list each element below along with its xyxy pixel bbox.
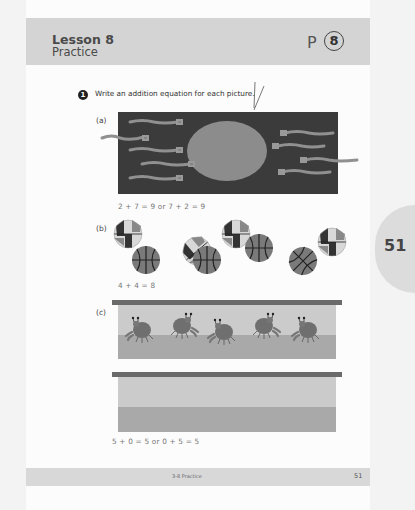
part-c-tank-with-crabs — [112, 300, 344, 366]
side-page-number: 51 — [384, 236, 406, 255]
part-b-label: (b) — [96, 224, 107, 233]
part-a-answer: 2 + 7 = 9 or 7 + 2 = 9 — [118, 202, 205, 211]
footer-page-number: 51 — [354, 472, 362, 480]
practice-label: P — [307, 33, 317, 52]
part-a-picture — [100, 108, 360, 198]
question-prompt: Write an addition equation for each pict… — [95, 89, 255, 98]
practice-number-badge: 8 — [324, 31, 344, 51]
part-b-picture — [110, 218, 350, 282]
part-c-answer: 5 + 0 = 5 or 0 + 5 = 5 — [112, 437, 199, 446]
part-c-empty-tank — [112, 372, 344, 438]
part-c-label: (c) — [96, 308, 106, 317]
question-number-badge: 1 — [78, 90, 88, 100]
lesson-subtitle: Practice — [52, 46, 98, 58]
part-b-answer: 4 + 4 = 8 — [118, 281, 155, 290]
footer-section-label: 3-8 Practice — [172, 473, 202, 479]
